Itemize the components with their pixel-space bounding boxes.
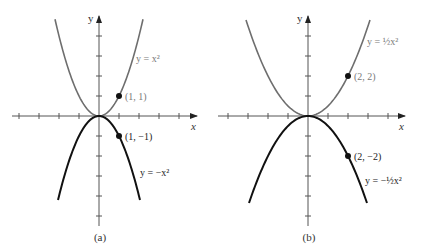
- panel-a: x y (1, 1)(1, −1) y = x² y = −x² (a): [12, 12, 197, 244]
- labeled-points: (2, 2)(2, −2): [345, 71, 381, 163]
- labeled-points: (1, 1)(1, −1): [116, 91, 152, 143]
- parabola-figure: x y (1, 1)(1, −1) y = x² y = −x² (a) x y…: [0, 0, 421, 246]
- lower-curve-equation: y = −x²: [140, 167, 169, 178]
- point-label: (1, 1): [125, 91, 147, 103]
- panel-caption: (b): [303, 231, 316, 244]
- panel-caption: (a): [94, 231, 107, 244]
- panel-b: x y (2, 2)(2, −2) y = ½x² y = −½x² (b): [218, 12, 405, 244]
- parabola-graphs: x y (1, 1)(1, −1) y = x² y = −x² (a) x y…: [0, 0, 421, 246]
- point-marker: [345, 73, 351, 79]
- point-marker: [116, 93, 122, 99]
- upper-curve-equation: y = ½x²: [367, 36, 398, 47]
- x-axis-label: x: [190, 120, 196, 132]
- point-marker: [345, 153, 351, 159]
- point-label: (1, −1): [125, 131, 152, 143]
- point-label: (2, −2): [354, 151, 381, 163]
- lower-curve-equation: y = −½x²: [365, 175, 402, 186]
- y-axis-label: y: [297, 12, 303, 24]
- y-axis-label: y: [88, 12, 94, 24]
- point-label: (2, 2): [354, 71, 376, 83]
- point-marker: [116, 133, 122, 139]
- x-axis-label: x: [398, 120, 404, 132]
- upper-curve-equation: y = x²: [136, 53, 160, 64]
